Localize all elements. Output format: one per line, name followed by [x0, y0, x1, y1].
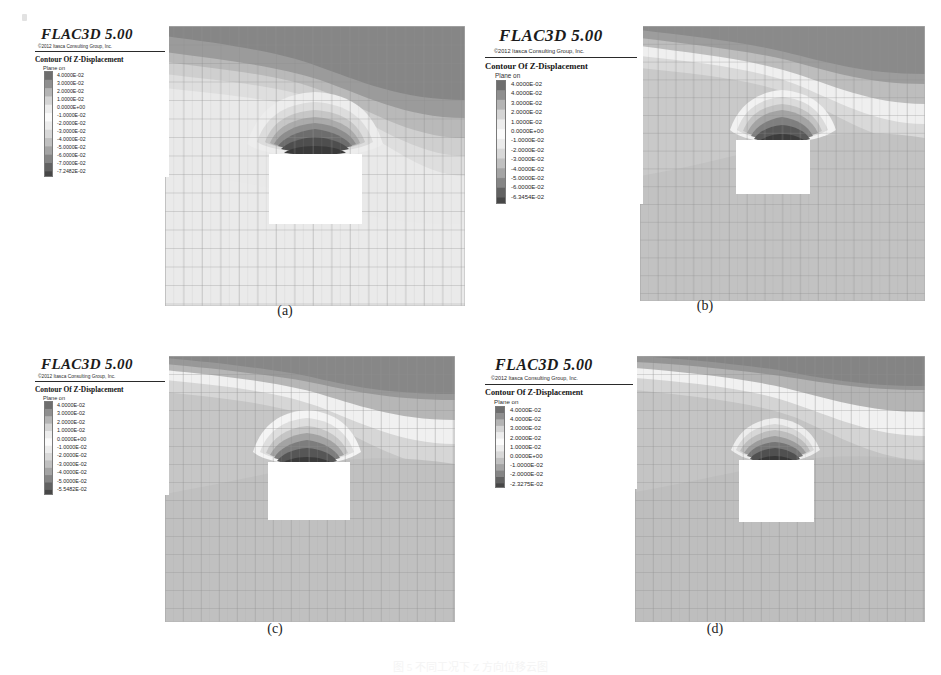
- legend-value: -7.2482E-02: [57, 167, 86, 175]
- legend-body-c: 4.0000E-02 3.0000E-02 2.0000E-02 1.0000E…: [44, 401, 169, 495]
- legend-value: -1.0000E-02: [511, 136, 544, 145]
- legend-value: 0.0000E+00: [511, 127, 544, 136]
- copyright-c: ©2012 Itasca Consulting Group, Inc.: [38, 374, 169, 379]
- legend-value: 4.0000E-02: [57, 71, 86, 79]
- panel-c-header: FLAC3D 5.00 ©2012 Itasca Consulting Grou…: [35, 356, 169, 495]
- legend-value: -6.3454E-02: [511, 193, 544, 202]
- legend-value: -6.0000E-02: [57, 151, 86, 159]
- panel-c-plot: [165, 356, 455, 622]
- legend-value: -1.0000E-02: [57, 111, 86, 119]
- legend-value: 2.0000E-02: [57, 87, 86, 95]
- legend-value: 1.0000E-02: [511, 118, 544, 127]
- legend-value: 2.0000E-02: [511, 108, 544, 117]
- panel-b-header: FLAC3D 5.00 ©2012 Itasca Consulting Grou…: [485, 26, 643, 204]
- legend-body-b: 4.0000E-02 4.0000E-02 3.0000E-02 2.0000E…: [496, 80, 643, 204]
- legend-colorbar-b: [496, 80, 506, 204]
- panel-d-header: FLAC3D 5.00 ©2012 Itasca Consulting Grou…: [485, 356, 637, 489]
- legend-colorbar-d: [495, 406, 505, 488]
- contour-plot-b: [640, 26, 925, 301]
- legend-value: -2.0000E-02: [510, 470, 543, 479]
- legend-value: 4.0000E-02: [510, 415, 543, 424]
- panel-a-header: FLAC3D 5.00 ©2012 Itasca Consulting Grou…: [35, 26, 169, 177]
- legend-values-a: 4.0000E-02 3.0000E-02 2.0000E-02 1.0000E…: [57, 71, 86, 175]
- panel-label-c: (c): [205, 621, 345, 637]
- copyright-d: ©2012 Itasca Consulting Group, Inc.: [491, 375, 637, 381]
- legend-value: -1.0000E-02: [57, 443, 87, 451]
- legend-value: -2.0000E-02: [57, 451, 87, 459]
- legend-value: 0.0000E+00: [510, 452, 543, 461]
- legend-value: 3.0000E-02: [511, 99, 544, 108]
- legend-value: 3.0000E-02: [57, 79, 86, 87]
- legend-value: -7.0000E-02: [57, 159, 86, 167]
- legend-value: 1.0000E-02: [510, 443, 543, 452]
- header-divider-c: [35, 381, 165, 382]
- legend-title-c: Contour Of Z-Displacement: [35, 385, 169, 394]
- legend-value: -5.5482E-02: [57, 485, 87, 493]
- legend-body-a: 4.0000E-02 3.0000E-02 2.0000E-02 1.0000E…: [44, 71, 169, 177]
- panel-b-plot: [640, 26, 925, 301]
- copyright-b: ©2012 Itasca Consulting Group, Inc.: [494, 48, 643, 54]
- legend-value: 0.0000E+00: [57, 435, 87, 443]
- legend-plane-d: Plane on: [494, 398, 637, 405]
- legend-value: -5.0000E-02: [57, 477, 87, 485]
- legend-value: 1.0000E-02: [57, 426, 87, 434]
- header-divider-d: [485, 384, 633, 385]
- flac3d-title-d: FLAC3D 5.00: [495, 356, 637, 374]
- legend-value: -3.0000E-02: [57, 460, 87, 468]
- copyright-a: ©2012 Itasca Consulting Group, Inc.: [38, 44, 169, 49]
- header-divider-a: [35, 51, 165, 52]
- legend-plane-b: Plane on: [495, 72, 643, 79]
- panel-label-d: (d): [645, 621, 785, 637]
- legend-value: -3.0000E-02: [511, 155, 544, 164]
- legend-colorbar-a: [44, 71, 53, 177]
- legend-value: -2.0000E-02: [57, 119, 86, 127]
- panel-label-a: (a): [215, 303, 355, 319]
- legend-value: -2.0000E-02: [511, 146, 544, 155]
- legend-value: -3.0000E-02: [57, 127, 86, 135]
- legend-values-d: 4.0000E-02 4.0000E-02 3.0000E-02 2.0000E…: [510, 406, 543, 489]
- legend-value: 2.0000E-02: [510, 434, 543, 443]
- legend-value: 4.0000E-02: [511, 80, 544, 89]
- panel-d: FLAC3D 5.00 ©2012 Itasca Consulting Grou…: [485, 356, 925, 622]
- panel-label-b: (b): [635, 298, 775, 314]
- legend-value: -5.0000E-02: [57, 143, 86, 151]
- legend-value: 4.0000E-02: [511, 89, 544, 98]
- legend-value: -6.0000E-02: [511, 183, 544, 192]
- legend-values-b: 4.0000E-02 4.0000E-02 3.0000E-02 2.0000E…: [511, 80, 544, 202]
- legend-value: 1.0000E-02: [57, 95, 86, 103]
- flac3d-title-a: FLAC3D 5.00: [41, 26, 169, 43]
- flac3d-title-b: FLAC3D 5.00: [499, 26, 643, 46]
- legend-value: -5.0000E-02: [511, 174, 544, 183]
- legend-value: -4.0000E-02: [57, 468, 87, 476]
- legend-title-a: Contour Of Z-Displacement: [35, 55, 169, 64]
- legend-value: -4.0000E-02: [511, 165, 544, 174]
- legend-value: 0.0000E+00: [57, 103, 86, 111]
- header-divider-b: [485, 57, 637, 58]
- legend-value: 3.0000E-02: [57, 409, 87, 417]
- scan-artifact: [22, 14, 27, 21]
- legend-value: 3.0000E-02: [510, 424, 543, 433]
- legend-value: 4.0000E-02: [510, 406, 543, 415]
- panel-a: FLAC3D 5.00 ©2012 Itasca Consulting Grou…: [35, 26, 465, 306]
- flac3d-title-c: FLAC3D 5.00: [41, 356, 169, 373]
- legend-title-d: Contour Of Z-Displacement: [485, 388, 637, 397]
- contour-plot-a: [165, 26, 465, 306]
- legend-value: -2.3275E-02: [510, 480, 543, 489]
- panel-c: FLAC3D 5.00 ©2012 Itasca Consulting Grou…: [35, 356, 465, 622]
- panel-b: FLAC3D 5.00 ©2012 Itasca Consulting Grou…: [485, 26, 925, 301]
- legend-values-c: 4.0000E-02 3.0000E-02 2.0000E-02 1.0000E…: [57, 401, 87, 493]
- figure-root: FLAC3D 5.00 ©2012 Itasca Consulting Grou…: [0, 0, 941, 675]
- figure-caption-faint: 图 5 不同工况下 Z 方向位移云图: [0, 658, 941, 674]
- legend-value: -1.0000E-02: [510, 461, 543, 470]
- contour-plot-c: [165, 356, 455, 622]
- contour-plot-d: [635, 356, 925, 622]
- panel-a-plot: [165, 26, 465, 306]
- legend-colorbar-c: [44, 401, 53, 495]
- legend-body-d: 4.0000E-02 4.0000E-02 3.0000E-02 2.0000E…: [495, 406, 637, 489]
- legend-value: 4.0000E-02: [57, 401, 87, 409]
- legend-title-b: Contour Of Z-Displacement: [485, 61, 643, 71]
- legend-value: 2.0000E-02: [57, 418, 87, 426]
- legend-value: -4.0000E-02: [57, 135, 86, 143]
- panel-d-plot: [635, 356, 925, 622]
